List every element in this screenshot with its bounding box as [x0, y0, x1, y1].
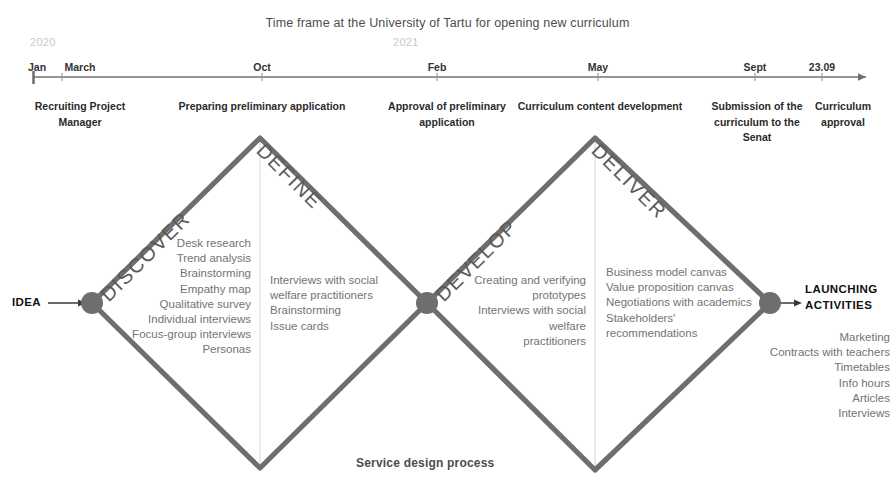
bottom-caption: Service design process [356, 456, 494, 470]
method-list-discover: Desk research Trend analysis Brainstormi… [104, 236, 251, 358]
arrow-idea-head [78, 299, 86, 306]
milestone-curriculum-approval: Curriculum approval [798, 99, 888, 130]
timeline-axis [0, 66, 895, 90]
diagram-canvas: Time frame at the University of Tartu fo… [0, 0, 895, 497]
start-label-idea: IDEA [12, 296, 41, 308]
launch-activities-list: Marketing Contracts with teachers Timeta… [735, 330, 890, 421]
page-title: Time frame at the University of Tartu fo… [0, 16, 895, 30]
milestone-preparing-preliminary-application: Preparing preliminary application [147, 99, 377, 115]
stage-name-define: DEFINE [252, 139, 327, 214]
stage-name-deliver: DELIVER [587, 139, 672, 224]
year-label-2020: 2020 [30, 36, 56, 48]
end-label-launching-activities: LAUNCHING ACTIVITIES [805, 282, 878, 313]
node-start-idea [81, 292, 103, 314]
milestone-recruiting-project-manager: Recruiting Project Manager [15, 99, 145, 130]
milestone-submission-to-senat: Submission of the curriculum to the Sena… [707, 99, 807, 146]
milestone-curriculum-content-development: Curriculum content development [500, 99, 700, 115]
year-label-2021: 2021 [393, 36, 419, 48]
method-list-develop: Creating and verifying prototypes Interv… [440, 273, 586, 349]
method-list-define: Interviews with social welfare practitio… [270, 273, 425, 334]
arrow-launch-head [794, 299, 802, 306]
